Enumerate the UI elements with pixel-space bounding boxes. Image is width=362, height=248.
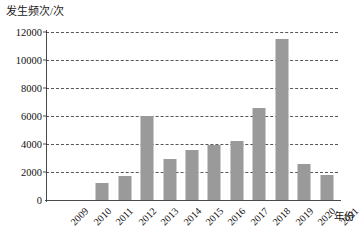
x-tick-label: 2017 [248, 205, 270, 227]
bar [298, 164, 311, 200]
bar [163, 159, 176, 200]
bar-slot [271, 32, 293, 200]
bar-slot [293, 32, 315, 200]
bar-slot [158, 32, 180, 200]
y-tick-label: 12000 [16, 27, 42, 38]
bar-slot [136, 32, 158, 200]
bar [275, 39, 288, 200]
y-tick-label: 2000 [21, 167, 42, 178]
x-tick-layer: 2009201020112012201320142015201620172018… [46, 200, 338, 248]
bar-slot [113, 32, 135, 200]
x-axis-title: 年份 [334, 208, 354, 223]
bar-slot [203, 32, 225, 200]
y-tick-label: 8000 [21, 83, 42, 94]
y-tick-label: 6000 [21, 111, 42, 122]
x-tick-label: 2011 [113, 205, 135, 227]
y-tick-label: 4000 [21, 139, 42, 150]
bar-slot [248, 32, 270, 200]
x-tick-label: 2010 [91, 205, 113, 227]
bar [253, 108, 266, 200]
x-tick-label: 2009 [69, 205, 91, 227]
bar-slot [68, 32, 90, 200]
bar-slot [226, 32, 248, 200]
bar [320, 175, 333, 200]
x-tick-label: 2012 [136, 205, 158, 227]
y-tick-label: 10000 [16, 55, 42, 66]
bar-series [46, 32, 338, 200]
y-axis-title: 发生频次/次 [6, 2, 64, 18]
bar-slot [316, 32, 338, 200]
bar [96, 183, 109, 200]
bar-slot [46, 32, 68, 200]
x-tick-label: 2014 [181, 205, 203, 227]
y-tick-label: 0 [37, 195, 42, 206]
x-tick-label: 2018 [271, 205, 293, 227]
bar [208, 145, 221, 200]
bar-slot [181, 32, 203, 200]
x-tick-label: 2015 [203, 205, 225, 227]
bar [185, 150, 198, 200]
x-tick-label: 2016 [226, 205, 248, 227]
bar-chart: 发生频次/次 020004000600080001000012000 20092… [0, 0, 362, 248]
bar-slot [91, 32, 113, 200]
x-tick-label: 2013 [159, 205, 181, 227]
bar [141, 116, 154, 200]
bar [118, 176, 131, 200]
x-tick-label: 2019 [293, 205, 315, 227]
bar [230, 141, 243, 200]
